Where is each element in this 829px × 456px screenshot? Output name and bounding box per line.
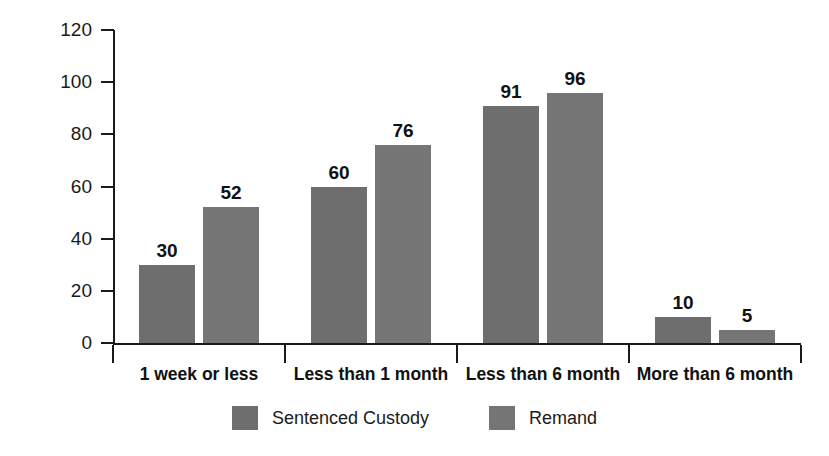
- bar-chart: per cent 020406080100120 305260769196105…: [0, 0, 829, 456]
- bar: 60: [311, 187, 367, 344]
- bar: 96: [547, 93, 603, 343]
- x-axis-category-label: Less than 1 month: [285, 366, 457, 384]
- y-axis-tick-label: 20: [30, 281, 92, 300]
- bar: 91: [483, 106, 539, 343]
- y-axis-tick-label: 40: [30, 229, 92, 248]
- bar: 5: [719, 330, 775, 343]
- bar-value-label: 5: [742, 306, 753, 325]
- bar-value-label: 91: [500, 82, 521, 101]
- plot-area: 305260769196105: [113, 30, 801, 343]
- legend-item: Sentenced Custody: [232, 406, 429, 430]
- legend-label: Remand: [529, 408, 597, 429]
- x-axis-separator: [628, 345, 630, 363]
- y-axis-tick-label: 120: [30, 20, 92, 39]
- legend-item: Remand: [489, 406, 597, 430]
- x-axis-category-label: 1 week or less: [113, 366, 285, 384]
- chart-legend: Sentenced CustodyRemand: [0, 406, 829, 430]
- legend-swatch: [489, 406, 515, 430]
- x-axis-separator: [284, 345, 286, 363]
- bar: 30: [139, 265, 195, 343]
- x-axis-separator: [800, 345, 802, 363]
- bar: 10: [655, 317, 711, 343]
- y-axis-tick-label: 60: [30, 177, 92, 196]
- x-axis-separator: [112, 345, 114, 363]
- x-axis-separator: [456, 345, 458, 363]
- legend-swatch: [232, 406, 258, 430]
- bar-value-label: 96: [564, 69, 585, 88]
- y-axis-tick-label: 100: [30, 72, 92, 91]
- legend-label: Sentenced Custody: [272, 408, 429, 429]
- bar-value-label: 10: [672, 293, 693, 312]
- bar-value-label: 76: [392, 121, 413, 140]
- bar: 52: [203, 207, 259, 343]
- x-axis-category-label: More than 6 month: [629, 366, 801, 384]
- bar-value-label: 30: [156, 241, 177, 260]
- bar: 76: [375, 145, 431, 343]
- bar-value-label: 52: [220, 183, 241, 202]
- x-axis-category-label: Less than 6 month: [457, 366, 629, 384]
- y-axis-tick-label: 80: [30, 124, 92, 143]
- y-axis-tick-label: 0: [30, 333, 92, 352]
- bar-value-label: 60: [328, 163, 349, 182]
